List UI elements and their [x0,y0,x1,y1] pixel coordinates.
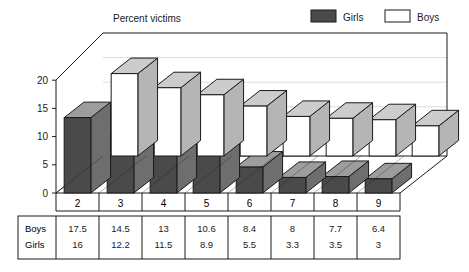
bar-front-face [154,88,181,156]
bar-front-face [236,167,263,193]
bar-front-face [197,95,224,156]
bar-front-face [369,120,396,156]
chart-title: Percent victims [113,13,181,24]
category-label-3: 3 [118,198,124,209]
ytick-label-0: 0 [42,188,48,199]
table-row-header-girls: Girls [25,239,45,250]
bar-front-face [279,177,306,193]
table-cell: 7.7 [329,223,342,234]
legend-label-girls: Girls [343,12,364,23]
table-cell: 11.5 [155,239,173,250]
table-cell: 3.3 [286,239,299,250]
bar-girls-8 [322,161,368,193]
category-label-9: 9 [376,198,382,209]
bar-front-face [111,74,138,156]
category-label-7: 7 [290,198,296,209]
bar-side-face [138,58,158,156]
bar-front-face [412,126,439,156]
y-axis: 0 5 10 15 20 [37,75,56,199]
table-cell: 13 [158,223,169,234]
table-cell: 14.5 [111,223,130,234]
depth-edge-top-left [56,33,103,80]
table-cell: 3 [376,239,381,250]
bar-boys-3 [154,72,200,156]
category-label-5: 5 [204,198,210,209]
chart-figure: Percent victims Girls Boys [0,0,469,272]
table-cell: 12.2 [111,239,130,250]
bar-front-face [193,151,220,193]
data-table: Boys17.514.51310.68.487.76.4Girls1612.21… [18,216,400,259]
bar-front-face [322,177,349,193]
legend-swatch-boys [385,10,410,22]
chart-legend: Girls Boys [311,10,439,23]
table-cell: 8.9 [200,239,213,250]
category-label-6: 6 [247,198,253,209]
bar-front-face [326,118,353,156]
legend-swatch-girls [311,10,336,22]
bar-boys-4 [197,79,243,156]
category-label-4: 4 [161,198,167,209]
bar-girls-2 [64,102,110,193]
category-label-2: 2 [75,198,81,209]
table-cell: 8 [290,223,295,234]
bar-front-face [365,179,392,193]
table-cell: 17.5 [68,223,87,234]
bar-boys-2 [111,58,157,156]
ytick-label-20: 20 [37,75,49,86]
table-row-header-boys: Boys [25,223,46,234]
legend-label-boys: Boys [417,12,439,23]
ytick-label-10: 10 [37,131,49,142]
ytick-label-15: 15 [37,103,49,114]
bar-front-face [240,106,267,156]
table-cell: 16 [72,239,83,250]
bar-front-face [283,116,310,156]
bar-girls-7 [279,162,325,193]
table-cell: 5.5 [243,239,256,250]
category-label-8: 8 [333,198,339,209]
ytick-label-5: 5 [42,159,48,170]
table-cell: 6.4 [372,223,385,234]
bar-front-face [64,118,91,193]
table-cell: 3.5 [329,239,342,250]
bar-chart-svg: Percent victims Girls Boys [0,0,469,272]
bar-girls-6 [236,152,282,193]
table-cell: 8.4 [243,223,256,234]
bar-girls-9 [365,163,411,193]
table-cell: 10.6 [197,223,216,234]
bar-boys-5 [240,91,286,156]
